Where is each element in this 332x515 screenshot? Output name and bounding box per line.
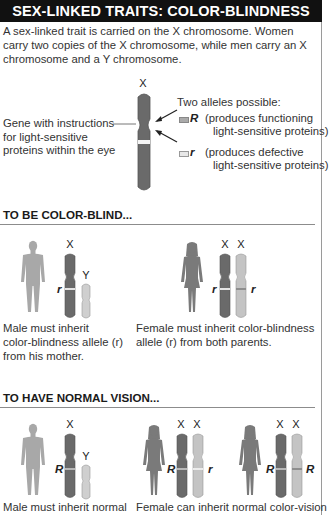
caption-line: allele (r) from both parents. bbox=[136, 335, 314, 349]
caption-line: Male must inherit normal bbox=[3, 500, 127, 514]
x-chromosome-light bbox=[192, 433, 204, 499]
allele-r-symbol: r bbox=[190, 146, 194, 158]
chromosome-x-label: X bbox=[234, 238, 248, 250]
female-figure-icon bbox=[140, 425, 168, 499]
y-chromosome-light bbox=[81, 464, 91, 500]
gene-label: Gene with instructions for light-sensiti… bbox=[3, 117, 115, 158]
section-divider bbox=[0, 407, 315, 408]
x-chromosome-light bbox=[291, 433, 303, 499]
section-heading-color-blind: TO BE COLOR-BLIND... bbox=[3, 208, 132, 221]
female-figure-icon bbox=[178, 242, 206, 316]
x-chromosome-light bbox=[235, 253, 247, 319]
chromosome-x-label: X bbox=[63, 418, 77, 430]
male-figure-icon bbox=[18, 423, 48, 499]
alleles-heading: Two alleles possible: bbox=[177, 96, 281, 110]
chromosome-x-label: X bbox=[273, 418, 287, 430]
section-heading-normal-vision: TO HAVE NORMAL VISION... bbox=[3, 391, 160, 404]
gene-label-line: Gene with instructions bbox=[3, 117, 115, 131]
chromosome-x-label: X bbox=[218, 238, 232, 250]
allele-label: r bbox=[212, 283, 216, 295]
allele-label: R bbox=[55, 463, 63, 475]
caption-female-normal: Female can inherit normal color-vision bbox=[136, 500, 327, 514]
x-chromosome-dark bbox=[64, 253, 76, 319]
allele-R-desc: (produces functioning bbox=[205, 112, 313, 126]
x-chromosome-dark bbox=[275, 433, 287, 499]
allele-R-swatch bbox=[179, 117, 189, 123]
y-chromosome-light bbox=[81, 283, 91, 319]
chromosome-x-label: X bbox=[190, 418, 204, 430]
gene-label-line: for light-sensitive bbox=[3, 131, 115, 145]
caption-female-color-blind: Female must inherit color-blindness alle… bbox=[136, 321, 314, 349]
chromosome-x-label: X bbox=[289, 418, 303, 430]
allele-r-desc: light-sensitive proteins) bbox=[213, 159, 329, 173]
caption-line: color-blindness allele (r) bbox=[3, 335, 123, 349]
allele-label: r bbox=[57, 283, 61, 295]
caption-line: Female must inherit color-blindness bbox=[136, 321, 314, 335]
allele-r-desc: (produces defective bbox=[205, 146, 304, 160]
caption-line: Female can inherit normal color-vision bbox=[136, 500, 327, 514]
caption-male-color-blind: Male must inherit color-blindness allele… bbox=[3, 321, 123, 363]
allele-R-desc: light-sensitive proteins) bbox=[213, 125, 329, 139]
chromosome-x-label: X bbox=[174, 418, 188, 430]
allele-label: r bbox=[208, 463, 212, 475]
section-divider bbox=[0, 224, 315, 225]
x-chromosome-dark bbox=[176, 433, 188, 499]
x-chromosome-dark bbox=[219, 253, 231, 319]
allele-r-swatch bbox=[179, 151, 189, 157]
allele-R-symbol: R bbox=[190, 112, 198, 124]
chromosome-y-label: Y bbox=[79, 450, 93, 462]
female-figure-icon bbox=[236, 425, 264, 499]
male-figure-icon bbox=[18, 240, 48, 316]
caption-line: Male must inherit bbox=[3, 321, 123, 335]
allele-label: R bbox=[266, 463, 274, 475]
chromosome-y-label: Y bbox=[79, 269, 93, 281]
caption-male-normal: Male must inherit normal bbox=[3, 500, 127, 514]
gene-label-line: proteins within the eye bbox=[3, 144, 115, 158]
x-chromosome-dark bbox=[64, 433, 76, 499]
allele-label: R bbox=[167, 463, 175, 475]
chromosome-x-label: X bbox=[63, 238, 77, 250]
caption-line: from his mother. bbox=[3, 349, 123, 363]
allele-label: R bbox=[306, 463, 314, 475]
allele-label: r bbox=[251, 283, 255, 295]
